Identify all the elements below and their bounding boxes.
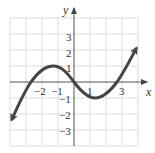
y-tick-label: −3 — [59, 125, 71, 137]
cubic-graph: x y −2 −1 1 3 3 2 1 −1 −2 −3 — [0, 0, 155, 153]
y-tick-label: 2 — [66, 47, 72, 59]
y-tick-label: −1 — [59, 93, 71, 105]
y-tick-label: −2 — [59, 109, 71, 121]
x-axis-label: x — [145, 85, 152, 99]
y-axis-label: y — [62, 3, 69, 17]
y-tick-label: 3 — [66, 31, 72, 43]
x-tick-label: 3 — [119, 85, 125, 97]
x-tick-label: −2 — [34, 85, 46, 97]
